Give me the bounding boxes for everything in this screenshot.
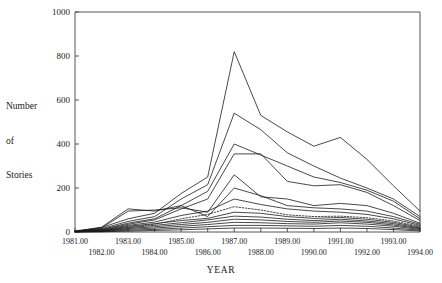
x-tick-label: 1989.00 <box>265 238 309 246</box>
data-series-line <box>75 175 420 232</box>
x-tick-label: 1985.00 <box>159 238 203 246</box>
chart-figure: Number of Stories 02004006008001000 1981… <box>0 0 442 283</box>
axis-layer <box>75 12 420 232</box>
x-tick-label: 1994.00 <box>398 249 442 257</box>
x-tick-label: 1993.00 <box>371 238 415 246</box>
y-tick-label: 200 <box>30 184 70 193</box>
x-tick-label: 1987.00 <box>212 238 256 246</box>
data-series-line <box>75 52 420 231</box>
y-tick-label: 400 <box>30 140 70 149</box>
y-tick-label: 0 <box>30 228 70 237</box>
x-axis-title: YEAR <box>0 265 442 275</box>
x-tick-label: 1982.00 <box>80 249 124 257</box>
y-tick-label: 600 <box>30 96 70 105</box>
x-tick-label: 1990.00 <box>292 249 336 257</box>
y-tick-label: 800 <box>30 52 70 61</box>
x-tick-label: 1988.00 <box>239 249 283 257</box>
x-tick-label: 1983.00 <box>106 238 150 246</box>
data-series-layer <box>75 52 420 232</box>
data-series-line <box>75 113 420 231</box>
y-tick-marks <box>75 12 79 232</box>
x-tick-label: 1991.00 <box>318 238 362 246</box>
x-tick-label: 1984.00 <box>133 249 177 257</box>
x-tick-label: 1981.00 <box>53 238 97 246</box>
x-tick-label: 1986.00 <box>186 249 230 257</box>
y-tick-label: 1000 <box>30 8 70 17</box>
x-tick-label: 1992.00 <box>345 249 389 257</box>
data-series-line <box>75 144 420 231</box>
